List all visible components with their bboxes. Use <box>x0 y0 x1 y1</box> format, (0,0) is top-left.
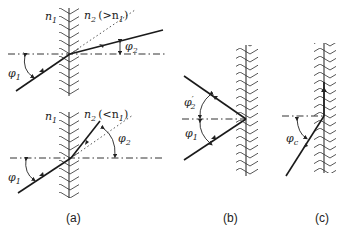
label-phi1: φ1 <box>8 67 21 82</box>
label-phi2-prime: φ′2 <box>184 94 196 111</box>
caption-a: (a) <box>66 211 81 225</box>
angle-arc-phi2 <box>103 128 115 156</box>
ray-arrow <box>85 140 89 145</box>
caption-c: (c) <box>315 211 329 225</box>
angle-arc-phi2-prime <box>200 94 211 117</box>
refraction-diagram: n1 n2(>n1) φ1 φ2 n1 n2(<n1) φ1 φ2 (a) φ′… <box>0 0 351 235</box>
interface-hatch <box>236 45 258 176</box>
ray-arrow <box>39 172 44 176</box>
angle-arc-phi1 <box>24 55 33 77</box>
label-phi2: φ2 <box>118 132 131 147</box>
panel-c: φc (c) <box>282 43 336 225</box>
angle-arc-phic <box>297 119 306 138</box>
angle-arc-phi1 <box>26 159 34 180</box>
panel-a-bottom: n1 n2(<n1) φ1 φ2 (a) <box>8 108 165 225</box>
caption-b: (b) <box>223 211 238 225</box>
label-n1: n1 <box>45 110 57 125</box>
label-phi2: φ2 <box>125 40 138 55</box>
panel-b: φ′2 φ1 (b) <box>182 45 258 225</box>
ray-arrow <box>39 68 44 72</box>
interface-hatch <box>314 43 336 173</box>
ray-arrow <box>211 135 216 139</box>
panel-a-top: n1 n2(>n1) φ1 φ2 <box>8 8 165 96</box>
label-n2-greater: n2(>n1) <box>84 9 128 24</box>
label-n2-less: n2(<n1) <box>84 108 128 123</box>
angle-arc-phi1 <box>200 121 211 144</box>
label-phic: φc <box>286 132 299 147</box>
label-n1: n1 <box>45 10 57 25</box>
refracted-ray <box>70 30 163 54</box>
label-phi1: φ1 <box>185 127 198 142</box>
label-phi1: φ1 <box>8 171 21 186</box>
